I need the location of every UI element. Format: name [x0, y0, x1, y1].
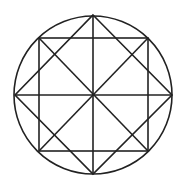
- geometric-diagram: [0, 0, 185, 186]
